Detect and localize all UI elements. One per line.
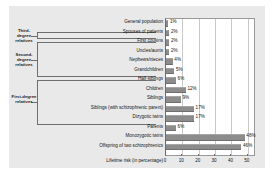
bar-label: Siblings (with schizophrenic parent) xyxy=(91,104,163,113)
bar-row: Dizygotic twins17% xyxy=(9,113,274,123)
chart-figure: Third-degreerelativesSecond-degreerelati… xyxy=(9,6,265,168)
bar-row: General population1% xyxy=(9,18,274,28)
bar-value-label: 12% xyxy=(187,85,196,94)
bar xyxy=(166,68,174,75)
bar-row: Siblings (with schizophrenic parent)17% xyxy=(9,104,274,114)
bar-value-label: 48% xyxy=(246,132,255,141)
tick-label-50: 50 xyxy=(244,158,249,163)
bar-label: Half-siblings xyxy=(138,75,163,84)
bar-row: Nephews/nieces4% xyxy=(9,56,274,66)
bar xyxy=(166,49,169,56)
bar xyxy=(166,144,241,151)
tick-mark-40 xyxy=(230,154,231,157)
bar-row: Children12% xyxy=(9,85,274,95)
bar-row: Siblings9% xyxy=(9,94,274,104)
bar xyxy=(166,87,186,94)
bar-value-label: 5% xyxy=(176,66,183,75)
tick-label-40: 40 xyxy=(228,158,233,163)
bar-label: Siblings xyxy=(147,94,163,103)
bar-row: Spouses of patients2% xyxy=(9,28,274,38)
tick-mark-50 xyxy=(247,154,248,157)
bar-label: Grandchildren xyxy=(134,66,163,75)
tick-label-10: 10 xyxy=(179,158,184,163)
tick-mark-30 xyxy=(214,154,215,157)
bar xyxy=(166,77,176,84)
bar-label: Children xyxy=(146,85,163,94)
bar-row: Half-siblings6% xyxy=(9,75,274,85)
bar-value-label: 4% xyxy=(174,56,181,65)
bar-value-label: 9% xyxy=(183,94,190,103)
x-axis: Lifetime risk (in percentage) 0102030405… xyxy=(9,156,274,170)
bar-label: General population xyxy=(124,18,163,27)
bar-value-label: 2% xyxy=(171,37,178,46)
bar-label: First cousins xyxy=(137,37,163,46)
bar-row: Parents6% xyxy=(9,123,274,133)
tick-label-30: 30 xyxy=(212,158,217,163)
bar xyxy=(166,125,176,132)
tick-mark-20 xyxy=(198,154,199,157)
bar xyxy=(166,106,194,113)
bar-label: Nephews/nieces xyxy=(129,56,163,65)
bar-value-label: 2% xyxy=(171,47,178,56)
bar xyxy=(166,58,173,65)
bar-value-label: 17% xyxy=(196,104,205,113)
bar-value-label: 46% xyxy=(243,142,252,151)
bar-value-label: 1% xyxy=(170,18,177,27)
tick-mark-0 xyxy=(165,154,166,157)
bar-row: Monozygotic twins48% xyxy=(9,132,274,142)
bar xyxy=(166,20,168,27)
bar-label: Uncles/aunts xyxy=(136,47,163,56)
bar-label: Monozygotic twins xyxy=(125,132,163,141)
bar-value-label: 6% xyxy=(178,75,185,84)
tick-label-20: 20 xyxy=(195,158,200,163)
x-axis-title: Lifetime risk (in percentage) xyxy=(106,158,163,163)
bar-label: Spouses of patients xyxy=(123,28,163,37)
tick-label-0: 0 xyxy=(164,158,167,163)
tick-mark-10 xyxy=(181,154,182,157)
bar-value-label: 17% xyxy=(196,113,205,122)
bar-label: Dizygotic twins xyxy=(133,113,163,122)
bar-row: Offspring of two schizophrenics46% xyxy=(9,142,274,152)
bar-label: Offspring of two schizophrenics xyxy=(99,142,163,151)
bar xyxy=(166,96,181,103)
bar-row: Grandchildren5% xyxy=(9,66,274,76)
bar-row: First cousins2% xyxy=(9,37,274,47)
bar-rows: General population1%Spouses of patients2… xyxy=(9,18,274,151)
bar xyxy=(166,39,169,46)
bar xyxy=(166,134,245,141)
bar-label: Parents xyxy=(147,123,163,132)
bar-value-label: 2% xyxy=(171,28,178,37)
bar xyxy=(166,30,169,37)
bar-value-label: 6% xyxy=(178,123,185,132)
bar xyxy=(166,115,194,122)
bar-row: Uncles/aunts2% xyxy=(9,47,274,57)
